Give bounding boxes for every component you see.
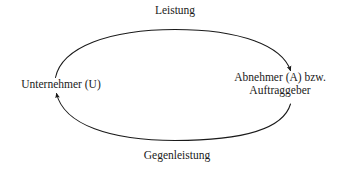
node-label-unternehmer: Unternehmer (U)	[8, 78, 114, 91]
node-label-abnehmer: Abnehmer (A) bzw. Auftraggeber	[227, 71, 333, 97]
gegenleistung-arc	[57, 94, 291, 141]
node-label-abnehmer-line2: Auftraggeber	[227, 84, 333, 97]
cycle-diagram: Leistung Gegenleistung Unternehmer (U) A…	[0, 0, 354, 171]
node-label-abnehmer-line1: Abnehmer (A) bzw.	[227, 71, 333, 84]
edge-label-leistung: Leistung	[0, 4, 352, 17]
edge-label-gegenleistung: Gegenleistung	[0, 149, 354, 162]
